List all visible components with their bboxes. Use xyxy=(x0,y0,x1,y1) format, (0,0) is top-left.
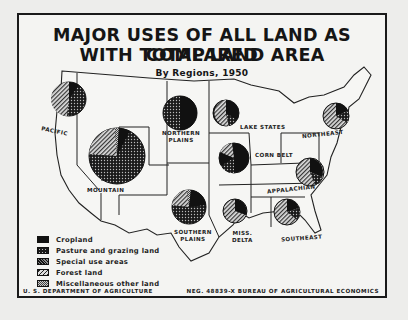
cropland-swatch-icon xyxy=(37,236,49,243)
pasture-swatch-icon xyxy=(37,247,49,254)
forest-swatch-icon xyxy=(37,269,49,276)
legend-item-cropland: Cropland xyxy=(37,234,159,245)
pie-lake-states xyxy=(213,100,239,126)
pie-pacific xyxy=(51,82,86,116)
region-label-northern-plains: NORTHERN PLAINS xyxy=(162,130,200,144)
region-label-mountain: MOUNTAIN xyxy=(87,187,124,194)
legend-item-special-use: Special use areas xyxy=(37,256,159,267)
pie-northeast xyxy=(323,103,349,129)
pie-southeast xyxy=(274,199,300,225)
region-label-corn-belt: CORN BELT xyxy=(255,152,293,159)
pie-mountain xyxy=(89,128,145,184)
map-frame: MAJOR USES OF ALL LAND AS COMPARED WITH … xyxy=(17,13,387,298)
pie-corn-belt xyxy=(219,143,249,173)
pie-southern-plains xyxy=(172,190,206,224)
legend-item-forest: Forest land xyxy=(37,267,159,278)
pie-appalachian xyxy=(296,158,324,186)
legend-item-pasture: Pasture and grazing land xyxy=(37,245,159,256)
region-label-southern-plains: SOUTHERN PLAINS xyxy=(174,229,212,243)
region-label-lake-states: LAKE STATES xyxy=(240,124,285,131)
pie-miss-delta xyxy=(223,199,247,223)
misc-swatch-icon xyxy=(37,280,49,287)
legend: Cropland Pasture and grazing land Specia… xyxy=(37,234,159,289)
region-label-miss-delta: MISS. DELTA xyxy=(232,230,253,244)
footer-negative-number: NEG. 48839-X BUREAU OF AGRICULTURAL ECON… xyxy=(187,288,379,294)
footer-department: U. S. DEPARTMENT OF AGRICULTURE xyxy=(23,288,153,294)
pie-northern-plains xyxy=(163,96,197,130)
special-use-swatch-icon xyxy=(37,258,49,265)
